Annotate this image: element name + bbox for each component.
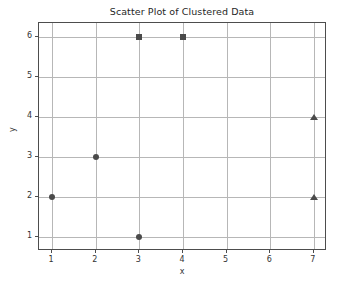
x-tick-label: 4 [172, 255, 192, 264]
scatter-plot-figure: Scatter Plot of Clustered Data 1234567 1… [0, 0, 339, 284]
x-tick-label: 7 [303, 255, 323, 264]
y-tick-label: 2 [20, 191, 32, 201]
y-tick-mark [35, 156, 38, 157]
plot-area [38, 22, 326, 250]
gridline-horizontal [39, 157, 325, 158]
y-tick-mark [35, 116, 38, 117]
y-tick-mark [35, 236, 38, 237]
gridline-vertical [314, 23, 315, 249]
x-tick-mark [95, 250, 96, 253]
y-axis-label: y [8, 110, 17, 150]
x-tick-label: 6 [259, 255, 279, 264]
gridline-vertical [227, 23, 228, 249]
gridline-horizontal [39, 77, 325, 78]
x-tick-mark [226, 250, 227, 253]
gridline-horizontal [39, 117, 325, 118]
gridline-vertical [96, 23, 97, 249]
y-tick-label: 1 [20, 231, 32, 241]
x-tick-label: 1 [41, 255, 61, 264]
data-point-circle [49, 194, 55, 200]
chart-title: Scatter Plot of Clustered Data [38, 6, 326, 17]
x-tick-label: 2 [85, 255, 105, 264]
y-tick-label: 6 [20, 31, 32, 41]
gridline-vertical [183, 23, 184, 249]
gridline-horizontal [39, 237, 325, 238]
x-tick-label: 3 [128, 255, 148, 264]
x-tick-mark [182, 250, 183, 253]
x-tick-mark [313, 250, 314, 253]
y-tick-label: 5 [20, 71, 32, 81]
y-tick-mark [35, 36, 38, 37]
gridline-horizontal [39, 197, 325, 198]
gridline-vertical [52, 23, 53, 249]
x-axis-label: x [38, 267, 326, 276]
y-tick-label: 4 [20, 111, 32, 121]
y-tick-mark [35, 196, 38, 197]
data-point-triangle [310, 194, 318, 200]
x-tick-mark [269, 250, 270, 253]
x-tick-label: 5 [216, 255, 236, 264]
gridline-vertical [139, 23, 140, 249]
data-point-square [180, 34, 186, 40]
gridline-vertical [270, 23, 271, 249]
data-point-triangle [310, 114, 318, 120]
x-tick-mark [138, 250, 139, 253]
data-point-circle [136, 234, 142, 240]
x-tick-mark [51, 250, 52, 253]
y-tick-mark [35, 76, 38, 77]
data-point-square [136, 34, 142, 40]
y-tick-label: 3 [20, 151, 32, 161]
data-point-circle [93, 154, 99, 160]
